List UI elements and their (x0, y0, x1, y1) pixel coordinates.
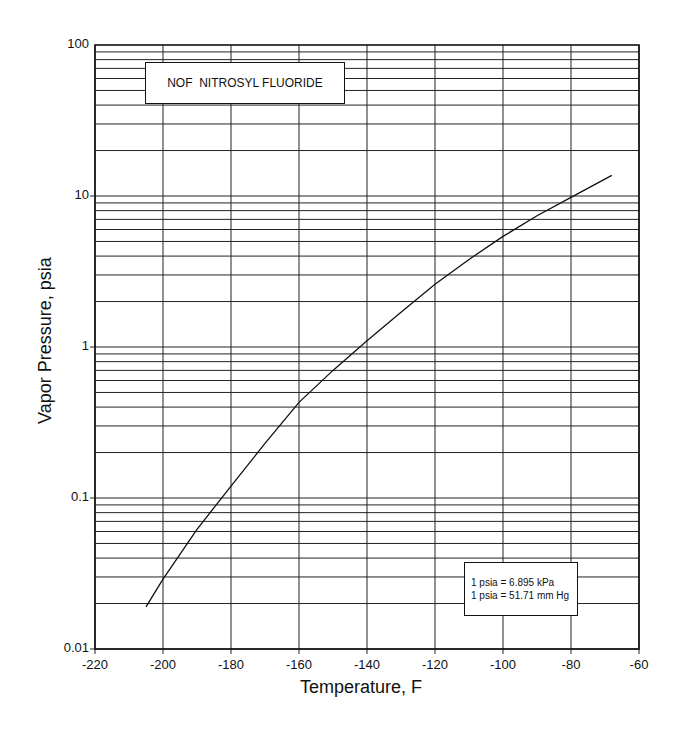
x-tick-label: -180 (211, 657, 251, 672)
x-tick-label: -140 (347, 657, 387, 672)
chart-title: NOF NITROSYL FLUORIDE (167, 76, 323, 90)
x-tick-label: -200 (143, 657, 183, 672)
y-axis-title: Vapor Pressure, psia (35, 241, 56, 441)
x-axis-title: Temperature, F (300, 677, 422, 698)
plot-area (0, 0, 675, 730)
x-tick-label: -100 (483, 657, 523, 672)
vapor-pressure-curve (146, 175, 612, 607)
y-tick-label: 10 (29, 187, 89, 202)
y-tick-label: 100 (29, 36, 89, 51)
y-tick-label: 0.1 (29, 489, 89, 504)
chart-title-box: NOF NITROSYL FLUORIDE (145, 62, 345, 104)
x-tick-label: -80 (551, 657, 591, 672)
x-tick-label: -60 (619, 657, 659, 672)
conversion-kpa: 1 psia = 6.895 kPa (471, 576, 577, 589)
x-tick-label: -220 (75, 657, 115, 672)
x-tick-label: -160 (279, 657, 319, 672)
conversion-note-box: 1 psia = 6.895 kPa 1 psia = 51.71 mm Hg (464, 562, 578, 616)
x-tick-label: -120 (415, 657, 455, 672)
conversion-mmhg: 1 psia = 51.71 mm Hg (471, 589, 577, 602)
y-tick-label: 0.01 (29, 640, 89, 655)
